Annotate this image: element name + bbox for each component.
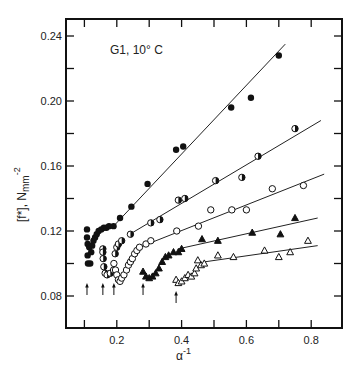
y-tick-label: 0.12 (41, 225, 62, 237)
x-tick-label: 0.2 (109, 334, 124, 346)
filled-circle-marker (180, 143, 186, 149)
half-filled-circle-marker (157, 216, 163, 222)
plot-frame (66, 19, 342, 328)
filled-circle-marker (144, 181, 150, 187)
arrow-head-icon (101, 283, 105, 288)
x-tick-label: 0.6 (239, 334, 254, 346)
fit-line (204, 246, 317, 262)
half-filled-circle-marker (118, 238, 124, 244)
arrow-head-icon (141, 283, 145, 288)
fit-line (114, 44, 286, 226)
half-filled-circle-marker (239, 174, 245, 180)
y-axis-title-sup: -2 (12, 167, 22, 175)
open-circle-marker (269, 186, 275, 192)
y-axis-title-main: [f*], N (15, 192, 29, 222)
half-filled-circle-marker (292, 125, 298, 131)
open-triangle-marker (275, 253, 282, 259)
open-circle-marker (195, 223, 201, 229)
y-axis-title-sub: mm (20, 175, 31, 192)
y-tick-label: 0.20 (41, 95, 62, 107)
open-circle-marker (111, 260, 117, 266)
arrow-head-icon (85, 283, 89, 288)
filled-circle-marker (84, 226, 90, 232)
open-circle-marker (229, 207, 235, 213)
filled-circle-marker (228, 104, 234, 110)
open-triangle-marker (214, 252, 221, 258)
open-triangle-marker (261, 247, 268, 253)
filled-circle-marker (248, 95, 254, 101)
y-tick-label: 0.24 (41, 30, 62, 42)
half-filled-circle-marker (101, 264, 107, 270)
y-axis-title: [f*], Nmm-2 (12, 167, 31, 222)
half-filled-circle-marker (100, 255, 106, 261)
arrow-head-icon (112, 283, 116, 288)
filled-circle-marker (173, 147, 179, 153)
x-tick-label: 0.8 (304, 334, 319, 346)
data-points (84, 52, 312, 285)
filled-triangle-marker (292, 214, 299, 220)
chart: 0.20.40.60.8 0.080.120.160.200.24 G1, 10… (0, 0, 359, 376)
half-filled-circle-marker (127, 231, 133, 237)
half-filled-circle-marker (182, 195, 188, 201)
half-filled-circle-marker (175, 197, 181, 203)
x-ticks: 0.20.40.60.8 (84, 19, 318, 346)
x-axis-title: α-1 (176, 346, 191, 363)
chart-annotation: G1, 10° C (110, 43, 163, 57)
filled-triangle-marker (156, 265, 163, 271)
filled-circle-marker (87, 260, 93, 266)
open-triangle-marker (194, 257, 201, 263)
arrow-head-icon (174, 291, 178, 296)
filled-circle-marker (84, 234, 90, 240)
open-circle-marker (174, 228, 180, 234)
open-circle-marker (300, 182, 306, 188)
half-filled-circle-marker (212, 177, 218, 183)
open-circle-marker (148, 238, 154, 244)
filled-circle-marker (128, 203, 134, 209)
half-filled-circle-marker (100, 249, 106, 255)
filled-circle-marker (117, 215, 123, 221)
y-tick-label: 0.08 (41, 290, 62, 302)
onset-arrows (85, 283, 178, 303)
half-filled-circle-marker (148, 220, 154, 226)
fit-lines (114, 44, 325, 262)
x-axis-title-main: α (176, 349, 183, 363)
filled-circle-marker (88, 249, 94, 255)
y-tick-label: 0.16 (41, 160, 62, 172)
filled-triangle-marker (277, 231, 284, 237)
open-triangle-marker (230, 253, 237, 259)
x-tick-label: 0.4 (174, 334, 189, 346)
filled-circle-marker (276, 52, 282, 58)
half-filled-circle-marker (112, 251, 118, 257)
open-circle-marker (208, 207, 214, 213)
x-axis-title-sup: -1 (183, 346, 191, 356)
filled-triangle-marker (199, 236, 206, 242)
open-triangle-marker (305, 237, 312, 243)
open-circle-marker (136, 244, 142, 250)
filled-circle-marker (110, 223, 116, 229)
half-filled-circle-marker (255, 153, 261, 159)
open-circle-marker (243, 207, 249, 213)
